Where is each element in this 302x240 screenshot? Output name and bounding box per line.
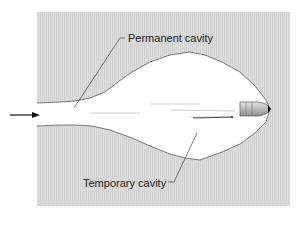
bullet-icon [240, 102, 271, 116]
arrow-right-icon [10, 112, 40, 118]
wound-track-end [231, 116, 233, 118]
permanent-cavity-label: Permanent cavity [128, 32, 213, 44]
temporary-cavity-label: Temporary cavity [83, 177, 166, 189]
